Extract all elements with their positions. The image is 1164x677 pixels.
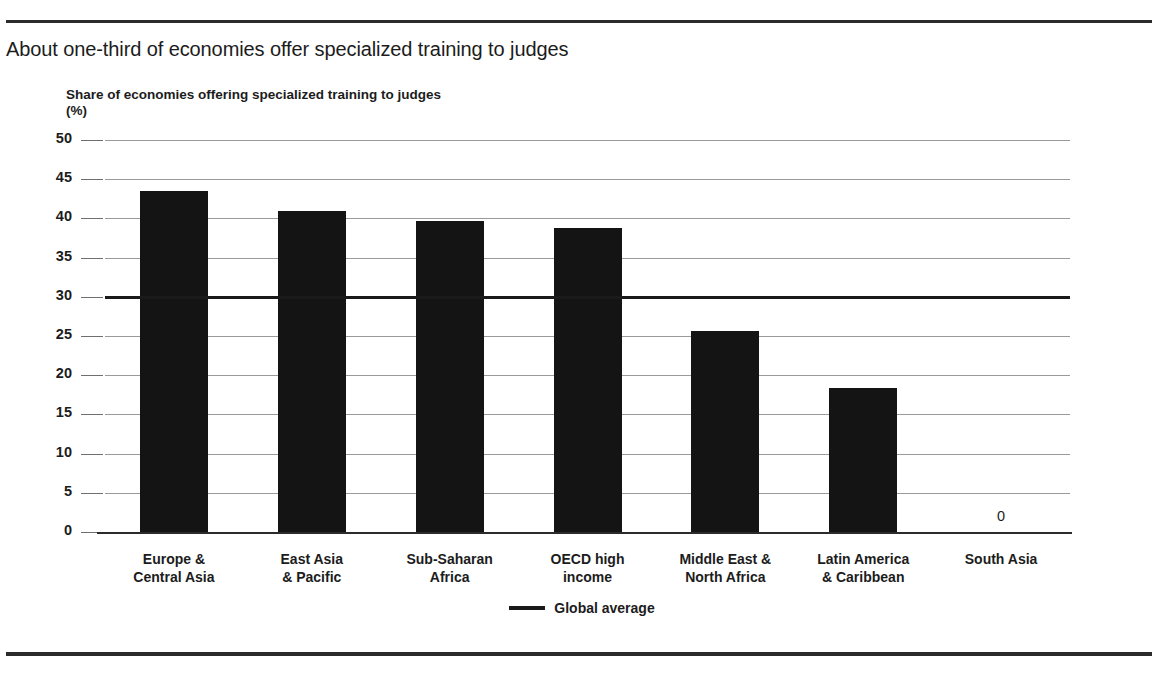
figure-panel: About one-third of economies offer speci… <box>0 0 1164 677</box>
y-axis-tick-label: 10 <box>10 444 72 460</box>
x-axis-category-label: Latin America & Caribbean <box>783 550 943 586</box>
x-axis-category-label: Europe & Central Asia <box>94 550 254 586</box>
chart-legend: Global average <box>0 600 1164 616</box>
bar[interactable] <box>278 211 346 532</box>
x-axis-category-label: East Asia & Pacific <box>232 550 392 586</box>
gridline <box>105 179 1070 180</box>
y-axis-tick-mark <box>81 218 103 219</box>
y-axis-tick-mark <box>81 414 103 415</box>
page-title: About one-third of economies offer speci… <box>6 38 568 61</box>
y-axis-tick-label: 5 <box>10 483 72 499</box>
y-axis-tick-mark <box>81 140 103 141</box>
bottom-rule <box>6 652 1152 656</box>
bar[interactable] <box>140 191 208 532</box>
y-axis-tick-label: 15 <box>10 404 72 420</box>
y-axis-tick-label: 20 <box>10 365 72 381</box>
y-axis-tick-mark <box>81 258 103 259</box>
x-axis-category-label: South Asia <box>921 550 1081 568</box>
bar[interactable] <box>829 388 897 532</box>
bar[interactable] <box>554 228 622 532</box>
y-axis-tick-label: 40 <box>10 208 72 224</box>
y-axis-tick-mark <box>81 493 103 494</box>
x-axis-line <box>97 532 1072 534</box>
legend-line-swatch <box>509 606 545 610</box>
y-axis-tick-label: 50 <box>10 130 72 146</box>
axis-caption: Share of economies offering specialized … <box>66 87 441 118</box>
y-axis-tick-label: 0 <box>10 522 72 538</box>
bar[interactable] <box>691 331 759 532</box>
legend-label-global-average: Global average <box>554 600 654 616</box>
x-axis-category-label: Middle East & North Africa <box>645 550 805 586</box>
y-axis-tick-mark <box>81 336 103 337</box>
plot-area: 05101520253035404550Europe & Central Asi… <box>105 140 1070 532</box>
x-axis-category-label: Sub-Saharan Africa <box>370 550 530 586</box>
y-axis-tick-label: 35 <box>10 248 72 264</box>
x-axis-category-label: OECD high income <box>508 550 668 586</box>
y-axis-tick-mark <box>81 454 103 455</box>
y-axis-tick-label: 25 <box>10 326 72 342</box>
y-axis-tick-mark <box>81 297 103 298</box>
gridline <box>105 218 1070 219</box>
global-average-line <box>105 296 1070 299</box>
y-axis-tick-mark <box>81 179 103 180</box>
y-axis-tick-label: 45 <box>10 169 72 185</box>
y-axis-tick-mark <box>81 375 103 376</box>
top-rule <box>6 20 1152 23</box>
gridline <box>105 140 1070 141</box>
bar[interactable] <box>416 221 484 532</box>
y-axis-tick-label: 30 <box>10 287 72 303</box>
bar-value-label: 0 <box>961 508 1041 524</box>
